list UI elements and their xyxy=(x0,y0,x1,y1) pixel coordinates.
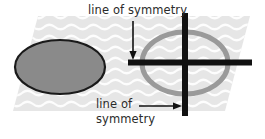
top-symmetry-label: line of symmetry xyxy=(88,3,187,17)
bottom-symmetry-label-line2: symmetry xyxy=(96,112,155,126)
bottom-symmetry-label: line ofsymmetry xyxy=(96,97,155,126)
solid-ellipse-shape xyxy=(15,40,105,94)
symmetry-figure: line of symmetry line ofsymmetry xyxy=(0,0,265,139)
bottom-symmetry-label-line1: line of xyxy=(96,97,132,111)
